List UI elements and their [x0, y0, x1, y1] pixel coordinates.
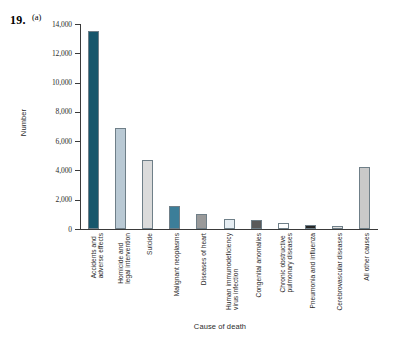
bar [332, 226, 343, 229]
bar [224, 219, 235, 229]
bar [278, 223, 289, 229]
y-axis-line [80, 24, 81, 230]
y-tick-mark [75, 24, 80, 25]
y-tick-label: 8,000 [30, 107, 72, 116]
x-category-label: Congenital anomalies [255, 233, 262, 297]
y-axis-title: Number [19, 93, 28, 153]
bar [305, 225, 316, 229]
x-category-label: Diseases of heart [200, 233, 207, 285]
y-tick-mark [75, 170, 80, 171]
x-axis-title: Cause of death [160, 322, 280, 331]
x-category-label: Pneumonia and influenza [309, 233, 316, 309]
x-axis-line [80, 229, 378, 230]
y-tick-mark [75, 229, 80, 230]
x-category-label: Human immunodeficiencyvirus infection [225, 233, 240, 310]
y-tick-mark [75, 112, 80, 113]
y-tick-label: 2,000 [30, 195, 72, 204]
x-category-label: Malignant neoplasms [173, 233, 180, 296]
y-tick-label: 12,000 [30, 49, 72, 58]
bar [115, 128, 126, 229]
y-tick-label: 10,000 [30, 78, 72, 87]
y-tick-label: 0 [30, 225, 72, 234]
x-category-label: All other causes [363, 233, 370, 281]
x-category-label: Accidents andadverse effects [90, 233, 105, 278]
bar-chart: 14,00012,00010,0008,0006,0004,0002,0000 … [0, 0, 395, 346]
y-tick-mark [75, 83, 80, 84]
x-category-label: Suicide [146, 233, 153, 255]
figure-container: 19. (a) 14,00012,00010,0008,0006,0004,00… [0, 0, 395, 346]
bar [359, 167, 370, 229]
x-category-label: Chronic obstructivepulmonary diseases [279, 233, 294, 293]
bar [142, 160, 153, 229]
y-tick-label: 14,000 [30, 20, 72, 29]
bar [88, 31, 99, 229]
bar [251, 220, 262, 229]
y-tick-label: 6,000 [30, 137, 72, 146]
bar [169, 206, 180, 229]
x-category-label: Cerebrovascular diseases [336, 233, 343, 310]
y-tick-mark [75, 53, 80, 54]
y-tick-mark [75, 200, 80, 201]
bar [196, 214, 207, 229]
x-category-label: Homicide andlegal intervention [117, 233, 132, 284]
y-tick-label: 4,000 [30, 166, 72, 175]
y-tick-mark [75, 141, 80, 142]
